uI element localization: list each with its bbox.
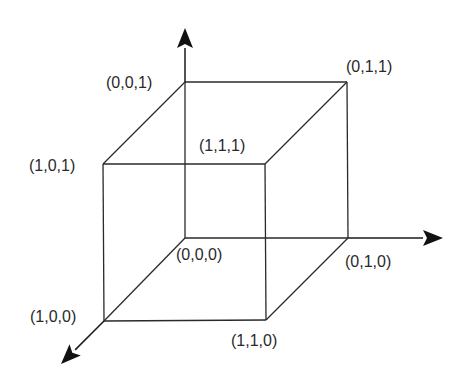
vertex-label-001: (0,0,1) [106, 74, 152, 91]
y-axis-arrowhead-icon [423, 230, 443, 246]
vertex-label-000: (0,0,0) [176, 246, 222, 263]
cube-edge-011-111 [265, 82, 347, 164]
cube-edge-010-011 [347, 82, 348, 238]
cube-edge-010-110 [266, 238, 348, 320]
vertex-label-101: (1,0,1) [29, 157, 75, 174]
vertex-label-011: (0,1,1) [346, 58, 392, 75]
cube-edge-001-101 [103, 82, 185, 164]
vertex-label-110: (1,1,0) [231, 332, 277, 349]
vertex-label-100: (1,0,0) [30, 308, 76, 325]
vertex-label-111: (1,1,1) [199, 137, 245, 154]
z-axis-arrowhead-icon [177, 28, 193, 48]
cube-edge-110-111 [265, 164, 266, 320]
vertex-label-010: (0,1,0) [345, 253, 391, 270]
unit-cube-diagram: (0,0,1) (0,1,1) (1,0,1) (1,1,1) (0,0,0) … [0, 0, 465, 378]
cube-edges [103, 82, 348, 321]
cube-edge-000-100 [104, 238, 185, 321]
vertex-labels: (0,0,1) (0,1,1) (1,0,1) (1,1,1) (0,0,0) … [29, 58, 392, 349]
cube-edge-100-110 [104, 320, 266, 321]
cube-edge-100-101 [103, 164, 104, 321]
x-axis-line [75, 321, 104, 350]
